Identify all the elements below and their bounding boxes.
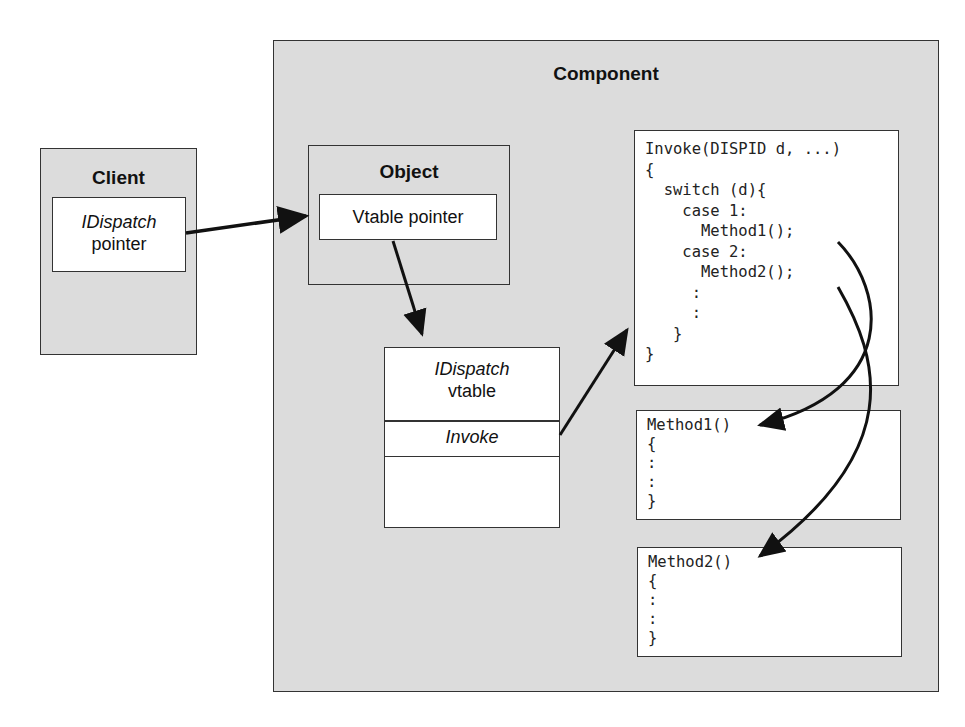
object-title: Object (309, 161, 509, 183)
vtable-header-line1: IDispatch (385, 358, 559, 380)
method1-code: Method1() { : : } (647, 416, 731, 511)
idispatch-pointer-line1: IDispatch (53, 211, 185, 233)
vtable-divider-1 (385, 420, 559, 422)
vtable-pointer-label: Vtable pointer (320, 206, 496, 228)
vtable-header: IDispatch vtable (385, 358, 559, 402)
invoke-code-box: Invoke(DISPID d, ...) { switch (d){ case… (634, 130, 899, 386)
invoke-code: Invoke(DISPID d, ...) { switch (d){ case… (645, 139, 841, 365)
method1-box: Method1() { : : } (636, 410, 901, 520)
idispatch-vtable-box: IDispatch vtable Invoke (384, 347, 560, 528)
idispatch-pointer-line2: pointer (53, 233, 185, 255)
method2-code: Method2() { : : } (648, 553, 732, 648)
vtable-pointer-box: Vtable pointer (319, 194, 497, 240)
client-box: Client IDispatch pointer (40, 148, 197, 355)
component-title: Component (274, 63, 938, 85)
method2-box: Method2() { : : } (637, 547, 902, 657)
vtable-entry-invoke: Invoke (385, 426, 559, 448)
client-title: Client (41, 167, 196, 189)
object-box: Object Vtable pointer (308, 145, 510, 285)
vtable-header-line2: vtable (385, 380, 559, 402)
idispatch-pointer-box: IDispatch pointer (52, 197, 186, 272)
vtable-divider-2 (385, 456, 559, 457)
